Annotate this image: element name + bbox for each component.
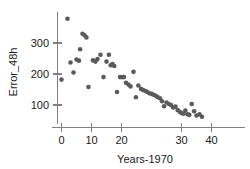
data-point bbox=[101, 75, 106, 80]
data-point bbox=[200, 114, 205, 119]
x-axis-group: 0 10 20 30 40 Years-1970 bbox=[52, 123, 245, 165]
data-point bbox=[77, 58, 82, 63]
data-point bbox=[192, 109, 197, 114]
data-point bbox=[115, 90, 120, 95]
data-point bbox=[131, 70, 136, 75]
x-tick-label-0: 0 bbox=[58, 134, 64, 146]
data-point bbox=[112, 64, 117, 69]
data-point bbox=[65, 17, 70, 22]
data-point bbox=[134, 95, 139, 100]
y-tick-label-200: 200 bbox=[31, 68, 49, 80]
plot-canvas: 300 200 100 Error_48h 0 10 20 30 40 Year… bbox=[0, 0, 250, 169]
data-point bbox=[98, 52, 103, 57]
data-point bbox=[86, 85, 91, 90]
data-point bbox=[128, 84, 133, 89]
data-point bbox=[78, 47, 83, 52]
data-point bbox=[84, 35, 89, 40]
x-tick-label-20: 20 bbox=[115, 134, 127, 146]
data-point bbox=[59, 77, 64, 82]
data-points-layer bbox=[59, 17, 204, 120]
scatter-plot-figure: 300 200 100 Error_48h 0 10 20 30 40 Year… bbox=[0, 0, 250, 169]
y-axis-group: 300 200 100 Error_48h bbox=[7, 12, 62, 124]
x-axis-title: Years-1970 bbox=[117, 153, 173, 165]
x-tick-label-10: 10 bbox=[85, 134, 97, 146]
y-tick-label-300: 300 bbox=[31, 37, 49, 49]
data-point bbox=[187, 113, 192, 118]
x-tick-label-30: 30 bbox=[175, 134, 187, 146]
y-axis-title: Error_48h bbox=[7, 48, 19, 97]
data-point bbox=[160, 99, 165, 104]
data-point bbox=[95, 57, 100, 62]
data-point bbox=[104, 59, 109, 64]
data-point bbox=[71, 70, 76, 75]
data-point bbox=[189, 102, 194, 107]
x-tick-label-40: 40 bbox=[205, 134, 217, 146]
y-tick-label-100: 100 bbox=[31, 99, 49, 111]
data-point bbox=[122, 75, 127, 80]
data-point bbox=[68, 60, 73, 65]
data-point bbox=[107, 52, 112, 57]
